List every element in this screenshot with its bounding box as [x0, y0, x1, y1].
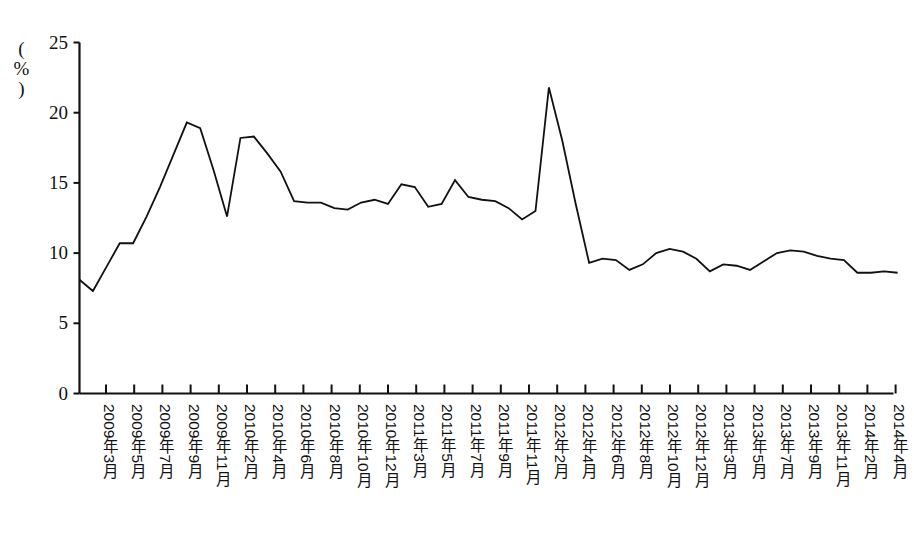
y-tick-label: 10	[34, 242, 68, 264]
y-tick-label: 5	[34, 312, 68, 334]
x-tick-label: 2009年5月	[126, 404, 148, 479]
x-tick-label: 2014年2月	[859, 404, 881, 479]
x-tick-label: 2011年11月	[521, 404, 543, 485]
x-tick-label: 2009年7月	[154, 404, 176, 479]
x-tick-label: 2009年3月	[98, 404, 120, 479]
chart-container: (%) 0510152025 2009年3月2009年5月2009年7月2009…	[0, 0, 914, 539]
x-tick-label: 2009年11月	[211, 404, 233, 487]
x-tick-label: 2010年6月	[295, 404, 317, 479]
x-tick-label: 2013年7月	[775, 404, 797, 479]
x-tick-label: 2010年2月	[239, 404, 261, 479]
x-tick-label: 2011年9月	[493, 404, 515, 478]
x-tick-label: 2012年4月	[577, 404, 599, 479]
x-tick-label: 2011年5月	[436, 404, 458, 478]
x-tick-label: 2014年4月	[888, 404, 910, 479]
x-tick-label: 2012年10月	[662, 404, 684, 488]
x-tick-label: 2011年7月	[465, 404, 487, 478]
axis-ticks	[74, 43, 896, 394]
x-tick-label: 2012年12月	[690, 404, 712, 488]
x-tick-label: 2013年5月	[747, 404, 769, 479]
y-tick-label: 25	[34, 32, 68, 54]
x-tick-label: 2011年3月	[408, 404, 430, 478]
x-tick-label: 2013年3月	[718, 404, 740, 479]
x-tick-label: 2010年12月	[380, 404, 402, 488]
x-tick-label: 2013年9月	[803, 404, 825, 479]
y-tick-label: 20	[34, 102, 68, 124]
x-tick-label: 2012年6月	[606, 404, 628, 479]
x-tick-label: 2010年8月	[324, 404, 346, 479]
axes-group	[80, 43, 894, 394]
x-tick-label: 2012年2月	[549, 404, 571, 479]
x-tick-label: 2009年9月	[183, 404, 205, 479]
y-tick-label: 15	[34, 172, 68, 194]
x-tick-label: 2010年10月	[352, 404, 374, 488]
x-tick-label: 2012年8月	[634, 404, 656, 479]
x-tick-label: 2013年11月	[831, 404, 853, 487]
data-series-line	[80, 87, 898, 291]
x-tick-label: 2010年4月	[267, 404, 289, 479]
y-tick-label: 0	[34, 383, 68, 405]
